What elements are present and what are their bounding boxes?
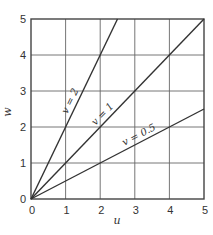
line-label: v = 1 xyxy=(89,101,115,128)
y-tick-label: 0 xyxy=(20,193,26,205)
line-label: v = 0.5 xyxy=(120,121,157,148)
y-tick-label: 3 xyxy=(20,85,26,97)
line-labels: v = 2v = 1v = 0.5 xyxy=(59,86,157,147)
y-tick-label: 2 xyxy=(20,121,26,133)
y-axis-label: w xyxy=(1,107,14,117)
x-axis-label: u xyxy=(113,214,120,227)
y-tick-label: 5 xyxy=(20,13,26,25)
chart: 012345 012345 u w v = 2v = 1v = 0.5 xyxy=(0,0,213,235)
y-tick-label: 1 xyxy=(20,157,26,169)
x-tick-label: 2 xyxy=(98,204,104,216)
x-tick-label: 1 xyxy=(64,204,70,216)
x-tick-label: 3 xyxy=(133,204,139,216)
x-tick-label: 4 xyxy=(167,204,173,216)
x-tick-label: 5 xyxy=(202,204,208,216)
data-lines xyxy=(31,19,204,199)
series-line xyxy=(31,19,204,199)
series-line xyxy=(31,109,204,199)
y-tick-labels: 012345 xyxy=(20,13,26,205)
y-tick-label: 4 xyxy=(20,49,26,61)
x-tick-label: 0 xyxy=(29,204,35,216)
